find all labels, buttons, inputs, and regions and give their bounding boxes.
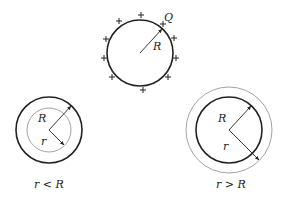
gaussian-radius-label: r <box>223 140 229 153</box>
inside-shell-figure: R r r < R <box>16 97 82 191</box>
charged-shell-figure: Q R <box>101 11 179 93</box>
gaussian-radius-arrow <box>229 130 259 160</box>
plus-charge-icon <box>103 36 109 42</box>
charge-label: Q <box>164 11 173 24</box>
caption-outside: r > R <box>216 178 246 191</box>
plus-charge-icon <box>101 55 107 61</box>
gauss-law-diagram: Q R R r r < R R r r > R <box>0 0 288 202</box>
plus-charge-icon <box>116 18 122 24</box>
shell-radius-label: R <box>37 112 46 125</box>
outside-shell-figure: R r r > R <box>186 87 272 191</box>
plus-charge-icon <box>138 12 144 18</box>
plus-charge-icon <box>109 74 115 80</box>
plus-charge-icon <box>140 87 146 93</box>
gaussian-radius-label: r <box>41 135 47 148</box>
radius-label: R <box>152 40 161 53</box>
gaussian-radius-arrow <box>49 130 64 145</box>
shell-radius-arrow <box>229 106 251 130</box>
caption-inside: r < R <box>34 178 64 191</box>
plus-charge-icon <box>173 55 179 61</box>
shell-radius-label: R <box>217 112 226 125</box>
plus-charge-icon <box>165 74 171 80</box>
plus-charge-icon <box>171 35 177 41</box>
